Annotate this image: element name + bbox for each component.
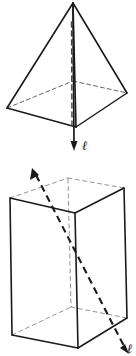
figure-canvas: ℓ — [0, 0, 136, 356]
geometry-figure: ℓ — [0, 0, 136, 356]
pyramid-axis-label: ℓ — [82, 138, 88, 153]
prism-axis-label: ℓ — [127, 341, 133, 356]
